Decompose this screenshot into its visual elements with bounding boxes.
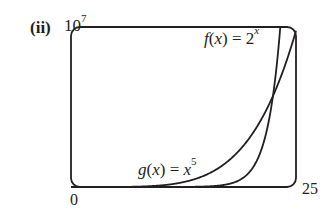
f-curve-label: f(x) = 2x	[204, 27, 259, 49]
g-eq: =	[165, 160, 183, 179]
g-base: x	[183, 160, 191, 179]
f-fn-name: f	[204, 29, 209, 48]
g-var: x	[152, 160, 160, 179]
f-var: x	[214, 29, 222, 48]
x-max-label: 25	[302, 180, 318, 198]
g-exponent: 5	[191, 155, 197, 167]
y-max-base: 10	[64, 16, 81, 35]
part-label: (ii)	[30, 18, 51, 38]
y-max-exponent: 7	[81, 12, 87, 24]
f-eq: =	[228, 29, 246, 48]
x-min-label: 0	[70, 191, 78, 209]
f-base: 2	[246, 29, 255, 48]
g-curve-label: g(x) = x5	[138, 158, 197, 180]
f-exponent: x	[254, 24, 259, 36]
g-fn-name: g	[138, 160, 147, 179]
y-max-label: 107	[64, 14, 87, 36]
